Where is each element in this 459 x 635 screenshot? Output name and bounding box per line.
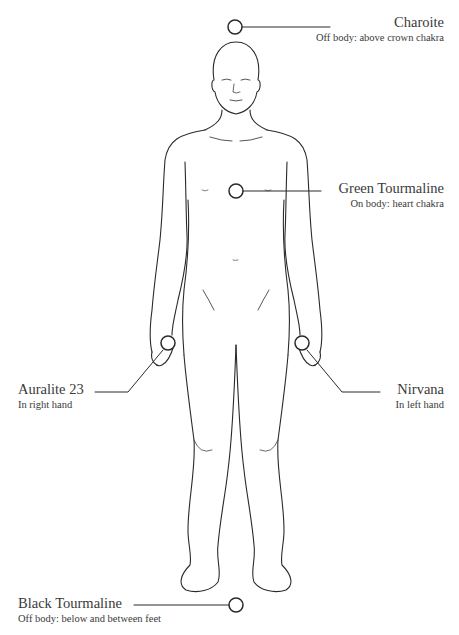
label-nirvana: Nirvana In left hand: [396, 381, 444, 410]
head-outline: [205, 42, 267, 130]
crystal-name: Charoite: [316, 14, 444, 31]
placement-description: Off body: above crown chakra: [316, 32, 444, 43]
crystal-name: Nirvana: [396, 381, 444, 398]
label-black-tourmaline: Black Tourmaline Off body: below and bet…: [18, 595, 161, 624]
body-outline-figure: [0, 0, 459, 635]
crystal-name: Green Tourmaline: [339, 180, 444, 197]
placement-description: On body: heart chakra: [339, 198, 444, 209]
placement-description: Off body: below and between feet: [18, 613, 161, 624]
label-charoite: Charoite Off body: above crown chakra: [316, 14, 444, 43]
placement-description: In right hand: [18, 399, 84, 410]
label-auralite-23: Auralite 23 In right hand: [18, 381, 84, 410]
crystal-name: Black Tourmaline: [18, 595, 161, 612]
marker-charoite[interactable]: [228, 20, 330, 34]
torso-outline: [150, 130, 322, 355]
label-green-tourmaline: Green Tourmaline On body: heart chakra: [339, 180, 444, 209]
placement-description: In left hand: [396, 399, 444, 410]
marker-green-tourmaline[interactable]: [229, 184, 321, 198]
crystal-name: Auralite 23: [18, 381, 84, 398]
legs-outline: [181, 345, 291, 592]
